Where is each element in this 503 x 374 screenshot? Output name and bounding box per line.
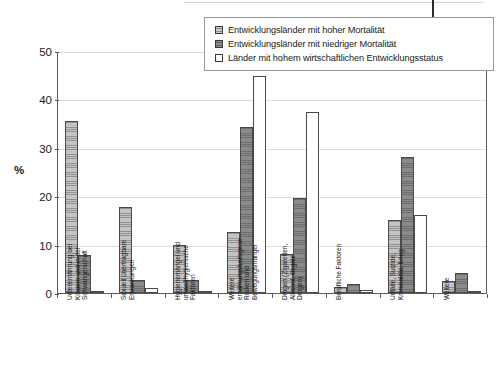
y-tick-label-40: 40 xyxy=(39,94,52,106)
x-category-label-7-line-0: Weitere xyxy=(443,228,451,300)
y-axis-title: % xyxy=(14,164,24,176)
y-tick-mark-20 xyxy=(55,197,59,198)
x-tick-mark-1 xyxy=(165,294,166,298)
y-tick-label-0: 0 xyxy=(46,288,52,300)
x-category-label-3-line-0: Weitere xyxy=(228,228,236,300)
y-tick-label-20: 20 xyxy=(39,191,52,203)
bar-g5-s1[interactable] xyxy=(347,284,360,293)
x-category-label-6-line-0: Unfälle, Suizide, xyxy=(389,228,397,300)
x-category-label-3-line-3: Bewegungsmangel xyxy=(250,228,258,300)
page-top-rule xyxy=(184,2,484,3)
x-tick-mark-5 xyxy=(380,294,381,298)
y-tick-mark-10 xyxy=(55,246,59,247)
legend-label-2: Länder mit hohem wirtschaftlichen Entwic… xyxy=(228,53,443,63)
bar-g4-s2[interactable] xyxy=(306,112,319,293)
x-category-label-1-line-0: Sexuell übertragbare xyxy=(120,228,128,300)
x-category-label-3-line-1: ernährungsbezogene xyxy=(235,228,243,300)
x-tick-mark-3 xyxy=(272,294,273,298)
legend-label-1: Entwicklungsländer mit niedriger Mortali… xyxy=(228,39,396,49)
bar-g1-s2[interactable] xyxy=(145,288,158,293)
chart-legend: Entwicklungsländer mit hoher Mortalität … xyxy=(204,17,494,71)
legend-item-1[interactable]: Entwicklungsländer mit niedriger Mortali… xyxy=(215,37,485,51)
page-edge-mark xyxy=(432,0,434,17)
bar-g6-s2[interactable] xyxy=(414,215,427,293)
bar-g7-s2[interactable] xyxy=(468,291,481,293)
legend-label-0: Entwicklungsländer mit hoher Mortalität xyxy=(228,25,384,35)
x-category-label-3-line-2: Risiken und xyxy=(243,228,251,300)
x-category-label-1-line-1: Erkrankungen xyxy=(128,228,136,300)
legend-item-0[interactable]: Entwicklungsländer mit hoher Mortalität xyxy=(215,23,485,37)
y-tick-mark-50 xyxy=(55,52,59,53)
y-tick-mark-30 xyxy=(55,149,59,150)
x-category-label-5-line-0: Berufliche Faktoren xyxy=(335,228,343,300)
x-category-label-2-line-1: umwelthygienische xyxy=(181,228,189,300)
x-category-label-0-line-2: Schwangerschaft xyxy=(82,228,90,300)
y-tick-label-50: 50 xyxy=(39,46,52,58)
legend-swatch-icon-developed xyxy=(215,54,223,62)
legend-swatch-icon-low-mortality xyxy=(215,40,223,48)
y-tick-label-30: 30 xyxy=(39,143,52,155)
bar-g5-s2[interactable] xyxy=(360,290,373,293)
x-category-label-2-line-0: Hygienemängel und xyxy=(174,228,182,300)
x-tick-mark-0 xyxy=(111,294,112,298)
legend-swatch-icon-high-mortality xyxy=(215,26,223,34)
x-tick-mark-7 xyxy=(487,294,488,298)
legend-item-2[interactable]: Länder mit hohem wirtschaftlichen Entwic… xyxy=(215,51,485,65)
x-category-label-4-line-2: Drogen) xyxy=(297,228,305,300)
x-category-label-2-line-2: Faktoren xyxy=(189,228,197,300)
x-tick-mark-4 xyxy=(326,294,327,298)
y-tick-label-10: 10 xyxy=(39,240,52,252)
bar-g2-s2[interactable] xyxy=(199,291,212,293)
x-tick-mark-origin xyxy=(57,294,58,298)
y-tick-mark-40 xyxy=(55,100,59,101)
bar-g7-s1[interactable] xyxy=(455,273,468,293)
bar-g0-s2[interactable] xyxy=(91,291,104,293)
x-category-label-6-line-1: Kriminalität, Krieg xyxy=(396,228,404,300)
x-tick-mark-6 xyxy=(433,294,434,298)
x-tick-mark-2 xyxy=(218,294,219,298)
